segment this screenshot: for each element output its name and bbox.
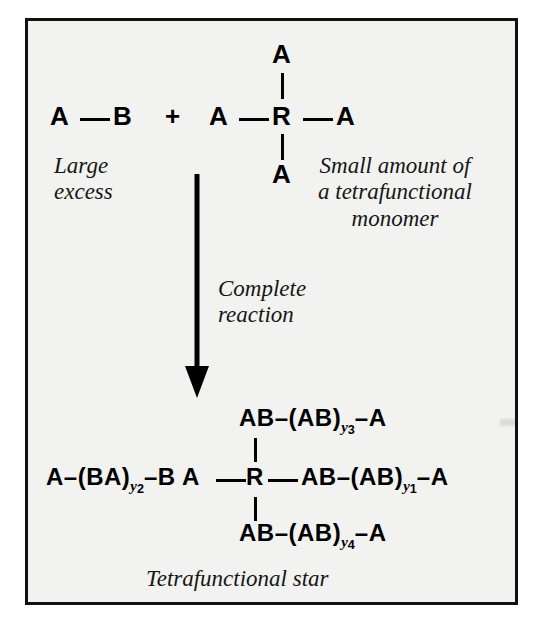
tetra-note-line-2: a tetrafunctional xyxy=(318,179,472,205)
bond-core-armtop xyxy=(254,438,257,462)
reactant-tetra-core-r: R xyxy=(272,103,291,129)
large-excess-line-1: Large xyxy=(54,153,113,179)
bond-r-abottom xyxy=(281,134,284,160)
reactant-tetra-a-right: A xyxy=(336,103,355,129)
arm-right-sub-num: 1 xyxy=(410,482,417,496)
bond-a-b xyxy=(80,118,110,121)
arm-right-sub-var: y xyxy=(403,478,410,494)
condition-line-1: Complete xyxy=(218,276,306,302)
tetrafunctional-monomer-note: Small amount of a tetrafunctional monome… xyxy=(318,153,472,232)
arm-left-sub-num: 2 xyxy=(137,482,144,496)
product-arm-left: A–(BA)y2–B A xyxy=(46,465,200,496)
reactant-tetra-a-bottom: A xyxy=(272,161,291,187)
reactant-tetra-a-left: A xyxy=(209,103,228,129)
bond-core-armright xyxy=(268,479,298,482)
arm-left-prefix: A–(BA) xyxy=(46,463,130,490)
scan-smudge xyxy=(500,419,518,426)
arm-top-suffix: –A xyxy=(355,404,387,431)
large-excess-label: Large excess xyxy=(54,153,113,206)
reactant-tetra-a-top: A xyxy=(272,41,291,67)
product-core-r: R xyxy=(246,465,264,489)
arm-top-subscript: y3 xyxy=(341,419,355,435)
downward-reaction-arrow xyxy=(180,174,220,400)
complete-reaction-label: Complete reaction xyxy=(218,276,306,329)
tetra-note-line-3: monomer xyxy=(318,206,472,232)
arm-bottom-subscript: y4 xyxy=(341,534,355,550)
arm-bottom-suffix: –A xyxy=(355,519,387,546)
figure-frame: A B + A R A A A Large excess Small amoun… xyxy=(25,18,518,605)
arm-right-prefix: AB–(AB) xyxy=(301,463,403,490)
large-excess-line-2: excess xyxy=(54,179,113,205)
arm-top-prefix: AB–(AB) xyxy=(239,404,341,431)
arm-left-subscript: y2 xyxy=(130,478,144,494)
tetra-note-line-1: Small amount of xyxy=(318,153,472,179)
bond-atop-r xyxy=(281,73,284,99)
arm-bottom-sub-var: y xyxy=(341,534,348,550)
arm-top-sub-var: y xyxy=(341,419,348,435)
condition-line-2: reaction xyxy=(218,302,306,328)
arm-right-suffix: –A xyxy=(417,463,449,490)
arm-left-suffix: –B A xyxy=(144,463,200,490)
reactant-ab-b: B xyxy=(113,103,132,129)
arm-left-sub-var: y xyxy=(130,478,137,494)
arm-right-subscript: y1 xyxy=(403,478,417,494)
product-caption: Tetrafunctional star xyxy=(146,566,329,592)
product-arm-right: AB–(AB)y1–A xyxy=(301,465,449,496)
reactant-ab-a: A xyxy=(50,103,69,129)
bond-armleft-core xyxy=(216,479,246,482)
product-arm-bottom: AB–(AB)y4–A xyxy=(239,521,387,552)
plus-sign: + xyxy=(165,103,181,129)
arm-top-sub-num: 3 xyxy=(348,423,355,437)
product-arm-top: AB–(AB)y3–A xyxy=(239,406,387,437)
arm-bottom-sub-num: 4 xyxy=(348,538,355,552)
bond-aleft-r xyxy=(239,118,269,121)
arm-bottom-prefix: AB–(AB) xyxy=(239,519,341,546)
bond-core-armbottom xyxy=(254,497,257,521)
bond-r-aright xyxy=(303,118,333,121)
